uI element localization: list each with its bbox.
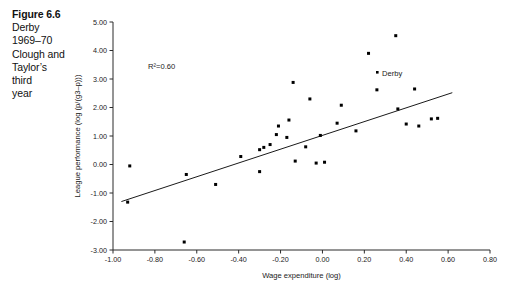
y-axis-title: League performance (log (p/(g3–p))) xyxy=(73,74,82,197)
data-point xyxy=(285,136,288,139)
figure-caption-line-3: Taylor’s xyxy=(12,61,74,74)
data-point xyxy=(315,162,318,165)
data-point xyxy=(258,170,261,173)
y-axis-title-text: League performance (log (p/(g3–p))) xyxy=(73,74,82,197)
y-tick-label: 2.00 xyxy=(93,103,107,112)
data-point xyxy=(417,125,420,128)
x-tick-label: -0.80 xyxy=(147,255,163,264)
data-point xyxy=(354,129,357,132)
x-tick-label: -0.40 xyxy=(230,255,246,264)
y-tick-label: 4.00 xyxy=(93,46,107,55)
derby-point-label: Derby xyxy=(382,69,402,78)
data-point xyxy=(269,143,272,146)
data-point xyxy=(239,155,242,158)
y-tick-label: 0.00 xyxy=(93,160,107,169)
data-point xyxy=(262,146,265,149)
data-point xyxy=(287,119,290,122)
data-point xyxy=(340,104,343,107)
data-point xyxy=(183,241,186,244)
data-point xyxy=(430,117,433,120)
data-point xyxy=(292,81,295,84)
y-tick-label: -1.00 xyxy=(91,189,107,198)
data-point xyxy=(304,145,307,148)
data-point xyxy=(275,133,278,136)
x-tick-label: 0.60 xyxy=(441,255,455,264)
x-tick-label: 0.80 xyxy=(483,255,497,264)
data-point xyxy=(277,125,280,128)
data-point xyxy=(258,148,261,151)
data-point xyxy=(308,97,311,100)
figure-caption-line-0: Derby xyxy=(12,21,74,34)
data-point xyxy=(375,88,378,91)
derby-label-marker xyxy=(376,71,379,74)
y-tick-label: -3.00 xyxy=(91,246,107,255)
data-point xyxy=(128,164,131,167)
y-tick-label: 3.00 xyxy=(93,75,107,84)
figure-caption-title: Figure 6.6 xyxy=(12,8,74,21)
y-axis-ticks: -3.00-2.00-1.000.001.002.003.004.005.00 xyxy=(91,18,113,255)
figure-caption-line-2: Clough and xyxy=(12,48,74,61)
y-tick-label: 5.00 xyxy=(93,18,107,27)
x-tick-label: -0.60 xyxy=(189,255,205,264)
x-tick-label: -0.20 xyxy=(272,255,288,264)
figure-caption-line-4: third xyxy=(12,74,74,87)
data-point xyxy=(413,87,416,90)
data-point xyxy=(126,201,129,204)
x-axis-ticks: -1.00-0.80-0.60-0.40-0.200.000.200.400.6… xyxy=(105,250,497,264)
data-point xyxy=(367,52,370,55)
data-point xyxy=(436,117,439,120)
data-point xyxy=(185,173,188,176)
x-tick-label: 0.00 xyxy=(315,255,329,264)
y-tick-label: 1.00 xyxy=(93,132,107,141)
x-axis-title: Wage expenditure (log) xyxy=(262,271,341,280)
figure-caption-line-1: 1969–70 xyxy=(12,34,74,47)
scatter-plot: -1.00-0.80-0.60-0.40-0.200.000.200.400.6… xyxy=(0,0,514,290)
data-point xyxy=(294,160,297,163)
y-tick-label: -2.00 xyxy=(91,217,107,226)
data-point xyxy=(396,107,399,110)
r-squared-annotation: R²=0.60 xyxy=(148,62,175,71)
figure-caption: Figure 6.6 Derby 1969–70 Clough and Tayl… xyxy=(12,8,74,100)
data-point xyxy=(214,183,217,186)
x-tick-label: 0.20 xyxy=(357,255,371,264)
figure-panel: Figure 6.6 Derby 1969–70 Clough and Tayl… xyxy=(0,0,514,290)
regression-line xyxy=(121,93,452,202)
figure-caption-line-5: year xyxy=(12,87,74,100)
x-tick-label: -1.00 xyxy=(105,255,121,264)
data-point xyxy=(323,161,326,164)
x-tick-label: 0.40 xyxy=(399,255,413,264)
data-point xyxy=(319,134,322,137)
data-point xyxy=(394,34,397,37)
data-point xyxy=(336,122,339,125)
data-point xyxy=(405,123,408,126)
